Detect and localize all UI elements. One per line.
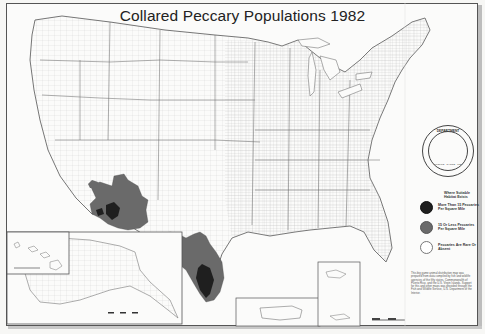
scale-bar [372, 318, 405, 320]
seal-bottom-text: WILDLIFE · RANGE · FISH [423, 163, 473, 166]
eastern-counties [225, 18, 430, 262]
legend-label: 15 Or Less Peccaries Per Square Mile [438, 223, 480, 231]
hawaii-inset [7, 232, 69, 274]
legend-item-low-density: 15 Or Less Peccaries Per Square Mile [408, 221, 480, 235]
legend-item-absent: Peccaries Are Rare Or Absent [408, 241, 480, 255]
legend-label: Peccaries Are Rare Or Absent [438, 243, 480, 251]
legend-label: More Than 15 Peccaries Per Square Mile [438, 203, 480, 211]
legend-heading: Where Suitable Habitat Exists [444, 191, 480, 199]
seal-top-text: DEPARTMENT [423, 129, 473, 133]
absent-swatch-icon [420, 241, 433, 254]
low-density-swatch-icon [420, 221, 433, 234]
high-density-swatch-icon [420, 201, 433, 214]
map-source-note: This big game animal distribution map wa… [411, 272, 473, 295]
virgin-islands-inset [318, 262, 360, 326]
agency-seal: DEPARTMENT WILDLIFE · RANGE · FISH [422, 125, 474, 177]
map-title: Collared Peccary Populations 1982 [0, 7, 485, 25]
puerto-rico-inset [236, 298, 320, 326]
legend-item-high-density: More Than 15 Peccaries Per Square Mile [408, 201, 480, 215]
